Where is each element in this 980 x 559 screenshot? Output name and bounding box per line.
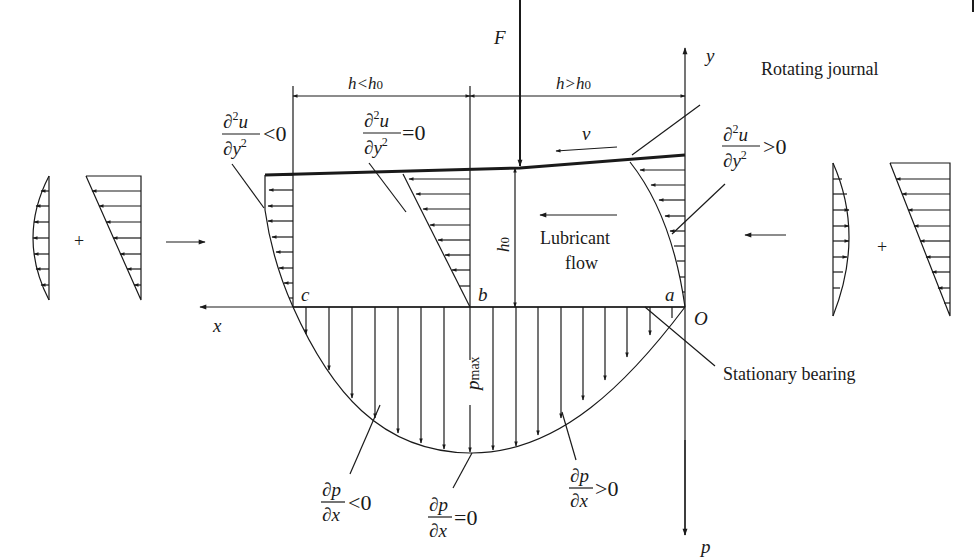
dim-right-label: h>h0 bbox=[556, 74, 591, 93]
svg-text:∂x: ∂x bbox=[322, 504, 340, 525]
left-velocity-decomposition: + bbox=[33, 176, 205, 300]
right-linear-profile bbox=[890, 163, 950, 316]
plus-sign-left: + bbox=[74, 231, 84, 251]
y-axis-label: y bbox=[704, 45, 715, 66]
x-axis-label: x bbox=[212, 315, 222, 336]
svg-text:∂p: ∂p bbox=[570, 465, 589, 486]
rotating-journal-surface bbox=[265, 155, 685, 175]
h0-label: h0 bbox=[494, 237, 513, 252]
svg-text:∂y2: ∂y2 bbox=[723, 148, 747, 171]
velocity-arrow-icon bbox=[556, 147, 617, 151]
lubricant-flow-label: Lubricant bbox=[540, 228, 610, 248]
lubricant-flow: Lubricant flow bbox=[540, 215, 617, 273]
svg-text:∂2u: ∂2u bbox=[723, 122, 748, 145]
eq-dp-eq-zero: ∂p ∂x =0 bbox=[428, 494, 477, 541]
eq-d2u-eq-zero: ∂2u ∂y2 =0 bbox=[363, 108, 425, 158]
velocity-profile-a: a bbox=[630, 162, 685, 307]
eq-d2u-lt-zero: ∂2u ∂y2 <0 bbox=[222, 109, 286, 159]
pressure-distribution: pmax bbox=[293, 307, 685, 453]
pmax-label: pmax bbox=[462, 356, 483, 392]
point-c-label: c bbox=[301, 284, 310, 305]
svg-text:>0: >0 bbox=[595, 476, 618, 501]
svg-text:=0: =0 bbox=[454, 505, 477, 530]
svg-text:=0: =0 bbox=[402, 120, 425, 145]
point-a-label: a bbox=[665, 284, 675, 305]
journal-velocity: v bbox=[556, 123, 617, 151]
point-b-label: b bbox=[478, 284, 488, 305]
left-linear-profile bbox=[86, 176, 141, 300]
rotating-journal-label: Rotating journal bbox=[761, 59, 878, 79]
left-parabolic-profile bbox=[33, 176, 49, 300]
svg-text:∂2u: ∂2u bbox=[223, 109, 248, 132]
svg-text:>0: >0 bbox=[763, 134, 786, 159]
velocity-label: v bbox=[582, 123, 591, 144]
lubricant-flow-label-2: flow bbox=[565, 253, 598, 273]
origin-label: O bbox=[694, 308, 708, 329]
eq-dp-gt-zero: ∂p ∂x >0 bbox=[569, 465, 618, 511]
force-label: F bbox=[493, 27, 506, 48]
svg-text:<0: <0 bbox=[348, 490, 371, 515]
right-velocity-decomposition: + bbox=[745, 163, 950, 316]
svg-text:∂y2: ∂y2 bbox=[364, 135, 388, 158]
svg-text:∂y2: ∂y2 bbox=[223, 136, 247, 159]
svg-text:∂x: ∂x bbox=[429, 520, 447, 541]
p-axis-label: p bbox=[699, 536, 711, 557]
svg-text:<0: <0 bbox=[263, 121, 286, 146]
load-force: F bbox=[493, 0, 520, 166]
dim-left-label: h<h0 bbox=[348, 74, 383, 93]
svg-text:∂x: ∂x bbox=[570, 490, 588, 511]
eq-dp-lt-zero: ∂p ∂x <0 bbox=[321, 479, 371, 525]
stationary-bearing-label: Stationary bearing bbox=[723, 364, 855, 384]
svg-text:∂p: ∂p bbox=[322, 479, 341, 500]
svg-text:∂2u: ∂2u bbox=[364, 108, 389, 131]
eq-d2u-gt-zero: ∂2u ∂y2 >0 bbox=[722, 122, 786, 171]
velocity-profile-b: b bbox=[403, 174, 488, 307]
h0-dimension: h0 bbox=[494, 168, 515, 307]
velocity-profile-c: c bbox=[265, 175, 310, 307]
plus-sign-right: + bbox=[877, 237, 887, 257]
lubrication-wedge-diagram: + + bbox=[0, 0, 980, 559]
svg-text:∂p: ∂p bbox=[429, 494, 448, 515]
right-parabolic-profile bbox=[833, 163, 849, 316]
